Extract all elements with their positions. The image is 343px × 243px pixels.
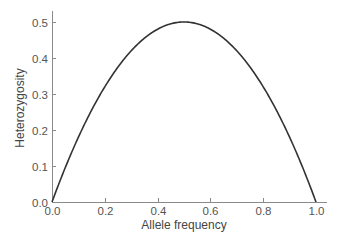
x-tick-label: 0.6 bbox=[203, 205, 219, 217]
x-axis-title: Allele frequency bbox=[141, 218, 226, 232]
y-axis-title: Heterozygosity bbox=[13, 68, 27, 147]
x-axis: 0.00.20.40.60.81.0 bbox=[45, 198, 328, 217]
heterozygosity-curve bbox=[52, 22, 316, 202]
x-tick-label: 1.0 bbox=[309, 205, 325, 217]
y-axis: 0.00.10.20.30.40.5 bbox=[32, 11, 56, 209]
x-tick-label: 0.8 bbox=[256, 205, 272, 217]
y-tick-label: 0.1 bbox=[32, 161, 48, 173]
heterozygosity-chart: 0.00.10.20.30.40.5 0.00.20.40.60.81.0 Al… bbox=[0, 0, 343, 243]
x-tick-label: 0.0 bbox=[45, 205, 61, 217]
y-tick-label: 0.3 bbox=[32, 89, 48, 101]
x-tick-label: 0.2 bbox=[98, 205, 114, 217]
y-tick-label: 0.5 bbox=[32, 17, 48, 29]
x-tick-label: 0.4 bbox=[151, 205, 168, 217]
y-tick-label: 0.2 bbox=[32, 125, 48, 137]
y-tick-label: 0.4 bbox=[32, 53, 49, 65]
